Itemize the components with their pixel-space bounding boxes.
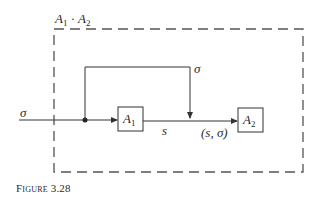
figure-caption: Figure 3.28 bbox=[16, 182, 71, 194]
input-sigma-label: σ bbox=[20, 106, 26, 119]
feedback-sigma-label: σ bbox=[194, 62, 200, 75]
edge-label-s: s bbox=[162, 124, 167, 137]
diagram-canvas bbox=[0, 0, 323, 199]
composite-title: A1 · A2 bbox=[55, 12, 91, 28]
edge-label-s-sigma: (s, σ) bbox=[201, 126, 228, 139]
dashed-boundary bbox=[54, 29, 303, 172]
block-a1-label: A1 bbox=[123, 112, 135, 128]
block-a2-label: A2 bbox=[243, 113, 255, 129]
